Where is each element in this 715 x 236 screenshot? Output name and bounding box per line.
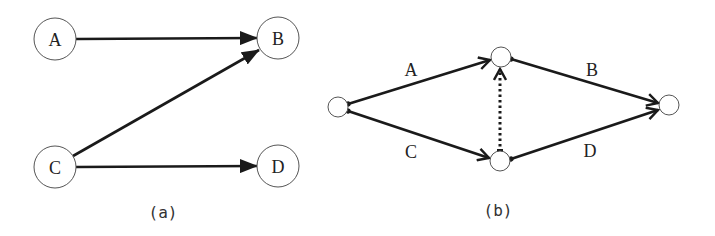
panel-a: A B C D (a) (34, 17, 299, 222)
edge-activity-b (511, 59, 658, 103)
edge-activity-a (348, 60, 490, 104)
caption-b: (b) (484, 201, 513, 220)
edge-a-to-b (76, 38, 257, 39)
event-node-top (491, 47, 511, 67)
node-d: D (257, 145, 299, 187)
edge-label-d: D (584, 141, 597, 161)
edge-label-a: A (405, 60, 418, 80)
node-d-label: D (272, 157, 285, 177)
node-b: B (257, 17, 299, 59)
node-a: A (34, 18, 76, 60)
activity-network-figure: A B C D (a) A B C D (b) (0, 0, 715, 236)
node-c: C (34, 146, 76, 188)
node-c-label: C (49, 158, 61, 178)
panel-b: A B C D (b) (328, 47, 679, 220)
edge-c-to-d (76, 166, 257, 167)
caption-a: (a) (149, 203, 178, 222)
event-node-bottom (490, 151, 510, 171)
event-node-start (328, 97, 348, 117)
edge-activity-c (348, 111, 489, 158)
edge-c-to-b (73, 50, 259, 156)
edge-label-b: B (586, 60, 598, 80)
node-a-label: A (49, 30, 62, 50)
event-node-end (659, 95, 679, 115)
node-b-label: B (272, 29, 284, 49)
edge-label-c: C (405, 142, 417, 162)
